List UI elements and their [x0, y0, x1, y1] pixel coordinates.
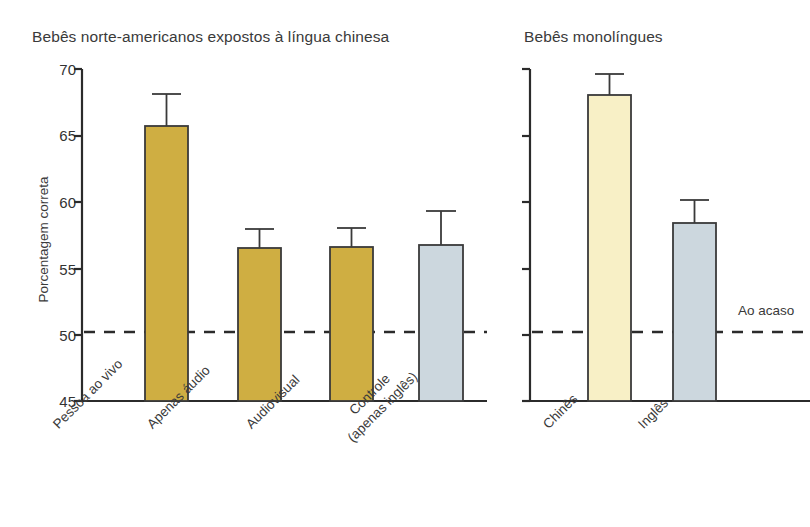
right-panel-axes — [522, 69, 810, 401]
figure-container: Bebês norte-americanos expostos à língua… — [0, 0, 810, 527]
bar-audiovisual — [330, 228, 373, 401]
bar-pessoa-ao-vivo — [145, 94, 188, 401]
chance-line-label: Ao acaso — [738, 303, 794, 318]
plot-area — [0, 0, 810, 527]
bar-ingles — [673, 200, 716, 401]
bar-apenas-audio — [238, 229, 281, 401]
bar-controle-apenas-ingles — [419, 211, 463, 401]
bar-chines — [588, 74, 631, 401]
